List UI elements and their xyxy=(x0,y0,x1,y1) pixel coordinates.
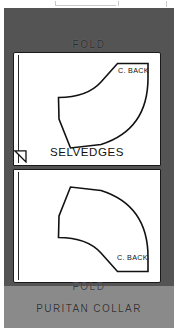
center-back-label-upper: C. BACK xyxy=(118,66,149,75)
fold-label-bottom: FOLD xyxy=(4,281,174,292)
scan-artifact xyxy=(166,1,167,7)
figure-title: PURITAN COLLAR xyxy=(4,303,174,314)
collar-piece-lower xyxy=(13,169,161,283)
scan-artifact xyxy=(118,1,119,6)
selvedge-notch-upper xyxy=(14,150,27,163)
center-back-label-lower: C. BACK xyxy=(117,253,148,262)
scan-artifact xyxy=(56,5,116,6)
selvedges-label: SELVEDGES xyxy=(13,146,161,158)
puritan-collar-cutting-layout: FOLD C. BACK SELVEDGES C. BACK FOLD PURI… xyxy=(0,0,189,332)
fold-label-top: FOLD xyxy=(4,39,174,50)
